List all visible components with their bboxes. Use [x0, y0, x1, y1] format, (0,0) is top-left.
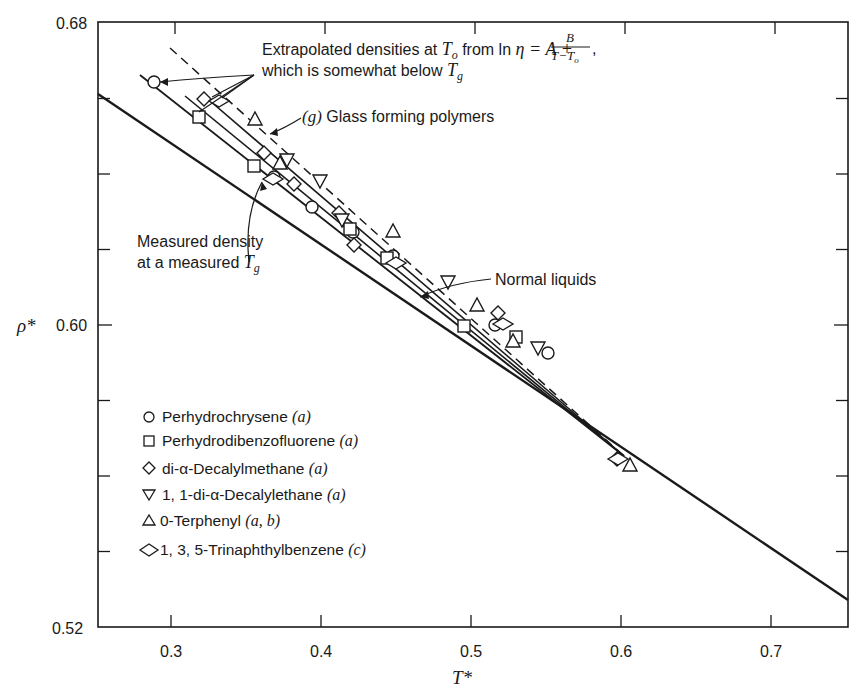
x-axis-label: T*	[452, 667, 473, 688]
legend: Perhydrochrysene (a) Perhydrodibenzofluo…	[140, 408, 366, 559]
extrapolated-annotation-line1: Extrapolated densities at To from ln η =…	[262, 39, 573, 62]
x-tick-label-04: 0.4	[310, 643, 332, 660]
legend-item-trinaphthylbenzene: 1, 3, 5-Trinaphthylbenzene (c)	[140, 541, 366, 559]
circle-icon	[144, 412, 154, 422]
square-icon	[144, 436, 154, 446]
measured-density-label-line2: at a measured Tg	[137, 252, 260, 275]
y-tick-label-060: 0.60	[56, 317, 87, 334]
wide-diamond-icon	[140, 544, 158, 556]
fraction-denominator: T−To	[551, 48, 579, 65]
legend-item-perhydrochrysene: Perhydrochrysene (a)	[144, 408, 311, 426]
measured-density-label-line1: Measured density	[137, 233, 263, 250]
y-tick-label-068: 0.68	[56, 15, 87, 32]
normal-liquids-label: Normal liquids	[495, 271, 596, 288]
glass-forming-polymers-label: (g) Glass forming polymers	[302, 107, 494, 126]
diamond-icon	[143, 462, 155, 474]
svg-text:Perhydrochrysene (a): Perhydrochrysene (a)	[162, 408, 311, 426]
fraction-comma: ,	[592, 40, 596, 57]
svg-text:0-Terphenyl (a, b): 0-Terphenyl (a, b)	[160, 512, 280, 530]
x-ticks-top	[175, 22, 775, 34]
y-ticks-right	[834, 99, 848, 552]
svg-text:di-α-Decalylmethane (a): di-α-Decalylmethane (a)	[162, 460, 327, 478]
legend-item-decalylmethane: di-α-Decalylmethane (a)	[143, 460, 327, 478]
fraction-numerator: B	[566, 30, 574, 45]
x-tick-label-07: 0.7	[760, 643, 782, 660]
svg-text:1, 3, 5-Trinaphthylbenzene (c): 1, 3, 5-Trinaphthylbenzene (c)	[160, 541, 366, 559]
legend-item-perhydrodibenzofluorene: Perhydrodibenzofluorene (a)	[144, 432, 358, 450]
y-tick-label-052: 0.52	[52, 620, 83, 637]
x-tick-label-05: 0.5	[460, 643, 482, 660]
x-tick-label-06: 0.6	[610, 643, 632, 660]
chart: 0.68 0.60 0.52 ρ* 0.3 0.4 0.5 0.6 0.7 T*	[0, 0, 868, 699]
triangle-down-icon	[143, 490, 155, 500]
svg-text:Perhydrodibenzofluorene (a): Perhydrodibenzofluorene (a)	[162, 432, 358, 450]
triangle-up-icon	[143, 515, 155, 525]
x-tick-label-03: 0.3	[160, 643, 182, 660]
extrapolated-annotation-line2: which is somewhat below Tg	[261, 60, 463, 83]
svg-text:1, 1-di-α-Decalylethane (a): 1, 1-di-α-Decalylethane (a)	[162, 486, 346, 504]
y-ticks-left	[98, 99, 112, 552]
legend-item-decalylethane: 1, 1-di-α-Decalylethane (a)	[143, 486, 346, 504]
legend-item-terphenyl: 0-Terphenyl (a, b)	[143, 512, 280, 530]
x-ticks-bottom	[171, 615, 771, 627]
y-axis-label: ρ*	[16, 315, 36, 336]
